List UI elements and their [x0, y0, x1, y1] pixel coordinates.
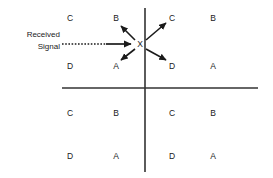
cell-ll-outer-d: D: [67, 152, 73, 161]
cell-ur-outer-b: B: [210, 14, 216, 23]
cell-lr-outer-b: B: [210, 109, 216, 118]
received-signal-label: Received Signal: [27, 29, 60, 52]
branch-arrow-to-b: [121, 26, 135, 40]
diagram-canvas: [0, 0, 273, 178]
cell-ur-inner-c: C: [169, 14, 175, 23]
branch-arrow-to-c: [146, 23, 166, 40]
received-signal-label-line1: Received: [27, 29, 60, 41]
cell-lr-outer-a: A: [210, 152, 216, 161]
cell-ur-outer-a: A: [210, 62, 216, 71]
cell-ll-outer-c: C: [67, 109, 73, 118]
center-x-marker: X: [137, 40, 143, 49]
cell-ll-inner-b: B: [113, 109, 119, 118]
branch-arrow-to-d: [146, 49, 166, 60]
cell-ul-outer-d: D: [67, 62, 73, 71]
branch-arrow-to-a: [121, 49, 135, 60]
received-signal-label-line2: Signal: [27, 41, 60, 53]
constellation-diagram: Received Signal X C B C B D A D A C B C …: [0, 0, 273, 178]
cell-ll-inner-a: A: [113, 152, 119, 161]
cell-ur-inner-d: D: [169, 62, 175, 71]
cell-ul-inner-a: A: [113, 62, 119, 71]
cell-lr-inner-d: D: [169, 152, 175, 161]
cell-ul-outer-c: C: [67, 14, 73, 23]
cell-lr-inner-c: C: [169, 109, 175, 118]
cell-ul-inner-b: B: [113, 14, 119, 23]
